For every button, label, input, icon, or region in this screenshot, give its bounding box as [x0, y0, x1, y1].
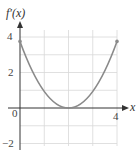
derivative-graph: f′(x) x 0 4 4 2 −2	[0, 0, 139, 155]
origin-label: 0	[12, 107, 18, 119]
endpoint-right	[115, 40, 119, 44]
endpoint-left	[18, 40, 22, 44]
x-axis-label: x	[129, 100, 136, 114]
x-tick-4: 4	[113, 110, 119, 122]
grid	[20, 30, 117, 146]
y-axis-label: f′(x)	[6, 6, 25, 20]
axes	[8, 26, 124, 150]
y-axis-arrow-icon	[17, 21, 23, 28]
y-tick-neg2: −2	[2, 137, 14, 149]
y-tick-4: 4	[7, 30, 13, 42]
y-tick-2: 2	[8, 66, 14, 78]
x-axis-arrow-icon	[122, 105, 129, 111]
